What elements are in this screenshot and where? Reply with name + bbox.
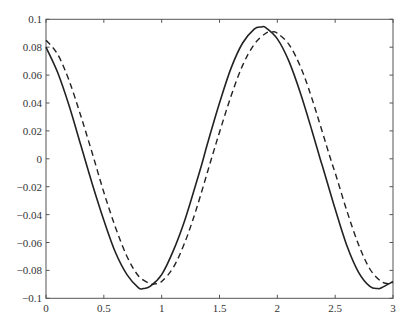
y-tick-label: 0.06 xyxy=(23,69,43,81)
x-tick-label: 2 xyxy=(275,302,281,314)
y-tick-label: −0.02 xyxy=(17,181,42,193)
x-tick-label: 2.5 xyxy=(328,302,342,314)
line-chart: 00.511.522.53 −0.1−0.08−0.06−0.04−0.0200… xyxy=(0,0,414,327)
y-tick-label: −0.04 xyxy=(17,209,43,221)
y-tick-label: 0 xyxy=(37,153,43,165)
plot-area xyxy=(46,19,393,298)
x-tick-label: 0 xyxy=(43,302,49,314)
y-tick-label: 0.02 xyxy=(23,125,42,137)
y-tick-label: 0.04 xyxy=(23,97,43,109)
x-tick-label: 1 xyxy=(159,302,165,314)
x-tick-label: 0.5 xyxy=(97,302,111,314)
y-tick-label: −0.06 xyxy=(17,237,43,249)
y-tick-label: 0.1 xyxy=(28,13,42,25)
y-tick-label: −0.1 xyxy=(22,292,42,304)
y-tick-label: 0.08 xyxy=(23,41,43,53)
x-tick-label: 1.5 xyxy=(213,302,227,314)
y-tick-label: −0.08 xyxy=(17,264,43,276)
x-tick-label: 3 xyxy=(390,302,396,314)
